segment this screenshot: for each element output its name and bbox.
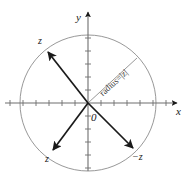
diagram-canvas bbox=[0, 0, 188, 175]
vector-label-z-upper-left: z bbox=[38, 36, 42, 46]
y-axis-label: y bbox=[76, 12, 81, 23]
vector-minus-z-lower-right bbox=[88, 103, 133, 148]
vector-z-lower-left bbox=[53, 103, 88, 150]
vector-label-minus-z-lower-right: −z bbox=[132, 152, 143, 162]
complex-plane-figure: y x 0 z z −z radius=|z| bbox=[0, 0, 188, 175]
vector-label-z-lower-left: z bbox=[45, 154, 49, 164]
x-axis-label: x bbox=[176, 106, 181, 117]
origin-label: 0 bbox=[91, 112, 97, 123]
vector-z-upper-left bbox=[48, 52, 88, 103]
